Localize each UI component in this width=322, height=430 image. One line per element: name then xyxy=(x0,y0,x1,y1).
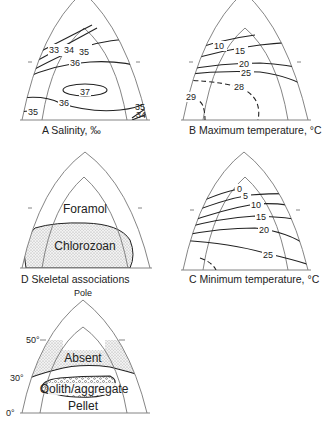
panel-b-max-temperature: 10 15 20 25 28 29 xyxy=(180,0,311,120)
panel-d-skeletal-associations: Foramol Chlorozoan xyxy=(20,152,152,268)
latitude-label-30: 30° xyxy=(10,373,24,383)
isoline-label: 35 xyxy=(28,107,38,117)
oolith-aggregate-label: Oolith/aggregate xyxy=(40,382,129,396)
isoline-label: 25 xyxy=(263,250,273,260)
isoline-label: 33 xyxy=(49,45,59,55)
isoline-label: 10 xyxy=(251,200,261,210)
inner-meridian xyxy=(42,28,127,120)
outer-meridian-left xyxy=(183,152,244,270)
chlorozoan-label: Chlorozoan xyxy=(54,239,115,253)
isoline-label: 29 xyxy=(186,92,196,102)
isoline-label: 37 xyxy=(80,87,90,97)
caption-a: A Salinity, ‰ xyxy=(42,124,101,136)
isoline-label: 10 xyxy=(214,41,224,51)
isoline-label: 36 xyxy=(70,58,80,68)
isoline-label: 34 xyxy=(64,45,74,55)
climate-diagrams: 33 34 35 36 37 36 35 35 34 10 15 xyxy=(0,0,322,430)
latitude-label-0: 0° xyxy=(6,408,15,418)
caption-c: C Minimum temperature, °C xyxy=(189,273,319,285)
absent-label: Absent xyxy=(64,351,102,365)
outer-meridian-right xyxy=(244,0,308,120)
isoline-label: 34 xyxy=(136,110,146,120)
panel-c-min-temperature: 0 5 10 15 20 25 xyxy=(180,152,311,270)
pole-label: Pole xyxy=(74,288,92,298)
caption-d: D Skeletal associations xyxy=(21,273,130,285)
isoline-label: 5 xyxy=(243,191,248,201)
caption-b: B Maximum temperature, °C xyxy=(189,124,322,136)
isoline-label: 25 xyxy=(241,68,251,78)
isoline-label: 28 xyxy=(234,82,244,92)
latitude-label-50: 50° xyxy=(26,335,40,345)
foramol-label: Foramol xyxy=(63,202,107,216)
isoline-label: 20 xyxy=(259,225,269,235)
isoline-label: 15 xyxy=(256,212,266,222)
panel-e-nonskeletal-grains: Pole 50° 30° 0° Absent Oolith/aggregate … xyxy=(6,288,150,418)
pellet-label: Pellet xyxy=(68,399,99,413)
isoline-label: 35 xyxy=(79,47,89,57)
isoline-label: 15 xyxy=(235,46,245,56)
isoline-label: 36 xyxy=(59,98,69,108)
panel-a-salinity: 33 34 35 36 37 36 35 35 34 xyxy=(20,0,150,120)
